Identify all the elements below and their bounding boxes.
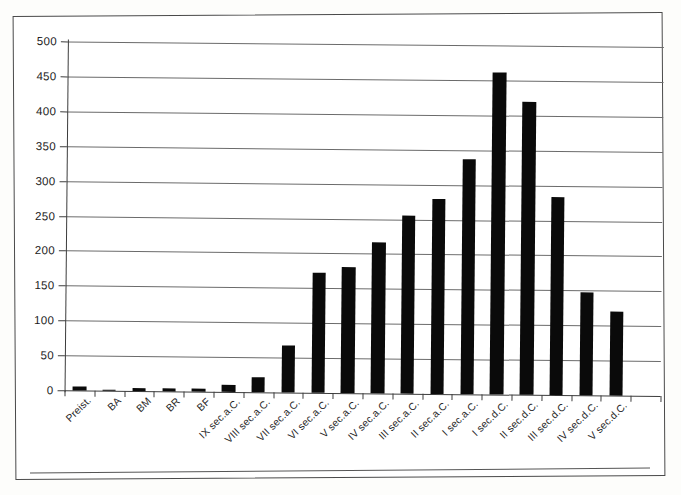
y-tick-label-400: 400	[36, 105, 56, 117]
gridline-50	[65, 355, 661, 362]
plot-area	[65, 41, 664, 396]
y-tick-label-500: 500	[37, 35, 57, 47]
gridline-500	[68, 41, 664, 48]
y-tick-50	[58, 355, 65, 356]
plot-wrapper: 050100150200250300350400450500 Preist.BA…	[0, 0, 681, 495]
gridline-450	[68, 76, 664, 83]
x-tick-label: BM	[134, 395, 153, 414]
y-tick-300	[60, 181, 67, 182]
x-tick-label: Preist.	[64, 395, 94, 424]
bar	[400, 216, 415, 394]
x-tick-label: BR	[164, 395, 182, 413]
y-tick-label-250: 250	[35, 210, 55, 222]
y-tick-label-350: 350	[36, 140, 56, 152]
bar	[371, 243, 386, 394]
y-tick-label-450: 450	[36, 70, 56, 82]
y-tick-350	[60, 146, 67, 147]
y-tick-100	[58, 320, 65, 321]
y-tick-150	[59, 286, 66, 287]
bar	[281, 346, 295, 393]
gridline-100	[65, 321, 661, 328]
y-tick-label-200: 200	[35, 244, 55, 256]
bar	[430, 198, 445, 394]
gridlines-group	[68, 41, 664, 47]
bar	[520, 102, 536, 395]
y-tick-label-0: 0	[47, 384, 54, 396]
y-tick-250	[59, 216, 66, 217]
gridline-150	[66, 286, 662, 293]
bar	[490, 72, 507, 395]
gridline-300	[67, 181, 663, 188]
y-tick-label-50: 50	[40, 349, 54, 361]
chart-page: 050100150200250300350400450500 Preist.BA…	[0, 0, 681, 495]
bar	[609, 311, 623, 396]
y-tick-0	[58, 390, 65, 391]
gridline-200	[66, 251, 662, 258]
x-axis-labels-group: Preist.BABMBRBFIX sec.a.C.VIII sec.a.C.V…	[64, 394, 665, 495]
y-tick-500	[61, 41, 68, 42]
bar	[341, 267, 356, 393]
y-tick-label-300: 300	[35, 175, 55, 187]
gridline-400	[67, 111, 663, 118]
bar	[460, 160, 476, 395]
gridline-250	[66, 216, 662, 223]
y-tick-400	[60, 111, 67, 112]
bar	[251, 378, 265, 393]
gridline-350	[67, 146, 663, 153]
bar	[311, 273, 326, 393]
y-tick-label-150: 150	[34, 279, 54, 291]
y-tick-label-100: 100	[34, 314, 54, 326]
x-tick-label: BF	[195, 396, 212, 413]
bar	[549, 197, 564, 395]
y-tick-200	[59, 251, 66, 252]
bar	[579, 293, 593, 396]
y-tick-450	[61, 76, 68, 77]
x-tick-label: BA	[105, 395, 123, 413]
